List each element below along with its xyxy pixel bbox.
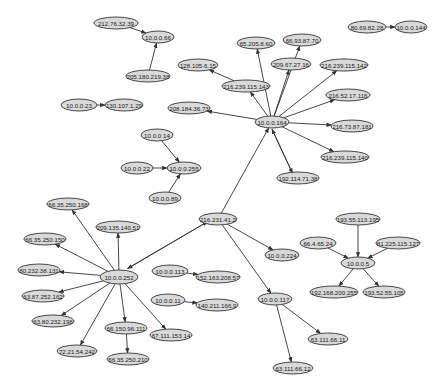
- node-label: 10.0.0.117: [261, 296, 290, 303]
- edge-10.0.0.14-to-10.0.0.255: [162, 141, 180, 163]
- edge-10.0.0.252-to-66.35.250.168: [72, 210, 114, 270]
- edge-212.76.32.39-to-10.0.0.66: [130, 28, 146, 33]
- graph-node[interactable]: 10.0.0.252: [100, 270, 138, 284]
- node-label: 216.239.115.143: [223, 83, 270, 90]
- node-label: 66.35.250.210: [108, 356, 148, 363]
- node-label: 10.0.0.89: [152, 195, 178, 202]
- edge-10.0.0.11-to-140.211.166.9: [184, 302, 197, 303]
- graph-node[interactable]: 192.168.200.255: [310, 286, 358, 298]
- graph-node[interactable]: 212.76.32.39: [94, 17, 138, 29]
- graph-node[interactable]: 63.80.232.198: [32, 315, 74, 327]
- nodes-layer: 212.76.32.3910.0.0.66205.180.219.3810.0.…: [18, 17, 427, 374]
- graph-node[interactable]: 216.239.115.140: [321, 151, 369, 163]
- node-label: 192.114.71.38: [278, 175, 318, 182]
- edge-216.231.41.2-to-10.0.0.164: [221, 128, 268, 213]
- graph-node[interactable]: 216.239.115.142: [320, 59, 368, 71]
- graph-node[interactable]: 10.0.0.66: [142, 31, 174, 43]
- network-graph: 212.76.32.3910.0.0.66205.180.219.3810.0.…: [0, 0, 440, 387]
- edge-10.0.0.89-to-10.0.0.255: [169, 174, 181, 192]
- graph-node[interactable]: 66.35.250.150: [24, 233, 66, 245]
- graph-node[interactable]: 67.111.153.14: [150, 329, 192, 341]
- edge-10.0.0.252-to-209.135.140.51: [118, 233, 119, 270]
- graph-node[interactable]: 63.111.66.12: [273, 362, 313, 374]
- graph-node[interactable]: 10.0.0.224: [265, 249, 299, 261]
- graph-node[interactable]: 216.52.17.116: [326, 89, 370, 101]
- node-label: 10.0.0.144: [396, 24, 426, 31]
- node-label: 10.0.0.113: [156, 268, 185, 275]
- edge-66.4.65.24-to-10.0.0.5: [328, 248, 348, 258]
- edge-10.0.0.164-to-216.73.87.181: [289, 123, 332, 125]
- node-label: 193.52.55.105: [364, 289, 404, 296]
- edge-10.0.0.252-to-63.87.252.162: [59, 281, 104, 292]
- node-label: 67.111.153.14: [152, 332, 191, 339]
- graph-node[interactable]: 66.150.96.111: [105, 322, 147, 334]
- graph-node[interactable]: 140.211.166.9: [196, 299, 238, 311]
- node-label: 10.0.0.14: [144, 132, 170, 139]
- graph-node[interactable]: 63.111.66.11: [308, 333, 348, 345]
- graph-node[interactable]: 216.239.115.143: [222, 80, 270, 92]
- edge-10.0.0.252-to-80.232.38.131: [59, 272, 100, 276]
- graph-node[interactable]: 193.55.113.195: [336, 213, 380, 225]
- node-label: 65.205.8.60: [240, 40, 273, 47]
- graph-node[interactable]: 66.4.65.24: [300, 237, 336, 249]
- graph-node[interactable]: 10.0.0.113: [152, 265, 188, 277]
- graph-node[interactable]: 209.67.27.16: [271, 58, 311, 70]
- graph-node[interactable]: 66.93.87.70: [283, 34, 321, 46]
- graph-node[interactable]: 66.35.250.210: [107, 353, 149, 365]
- node-label: 216.239.115.142: [321, 62, 368, 69]
- node-label: 130.107.1.29: [106, 102, 143, 109]
- node-label: 212.76.32.39: [98, 20, 135, 27]
- graph-node[interactable]: 10.0.0.22: [121, 162, 153, 174]
- node-label: 216.239.115.140: [322, 154, 369, 161]
- edge-10.0.0.164-to-209.67.27.16: [274, 70, 289, 116]
- graph-node[interactable]: 193.52.55.105: [363, 286, 405, 298]
- edge-216.239.115.143-to-128.105.6.15: [209, 70, 234, 81]
- graph-node[interactable]: 209.135.140.51: [96, 221, 140, 233]
- node-label: 10.0.0.11: [155, 297, 181, 304]
- node-label: 80.69.82.28: [351, 24, 384, 31]
- node-label: 10.0.0.164: [257, 119, 287, 126]
- graph-node[interactable]: 80.232.38.131: [18, 264, 60, 276]
- node-label: 193.55.113.195: [337, 216, 380, 223]
- graph-node[interactable]: 10.0.0.89: [149, 192, 181, 204]
- graph-node[interactable]: 130.107.1.29: [105, 99, 143, 111]
- graph-node[interactable]: 65.205.8.60: [237, 37, 275, 49]
- edge-10.0.0.252-to-66.35.250.150: [55, 244, 108, 271]
- graph-node[interactable]: 10.0.0.144: [395, 21, 427, 33]
- graph-node[interactable]: 205.180.219.38: [126, 70, 170, 82]
- graph-node[interactable]: 192.114.71.38: [277, 172, 319, 184]
- edge-10.0.0.5-to-193.52.55.105: [363, 269, 379, 287]
- graph-node[interactable]: 72.21.54.242: [57, 345, 97, 357]
- graph-node[interactable]: 216.231.41.2: [199, 213, 237, 225]
- node-label: 63.111.66.11: [311, 336, 346, 343]
- graph-node[interactable]: 10.0.0.117: [258, 293, 292, 305]
- node-label: 209.67.27.16: [273, 61, 310, 68]
- graph-node[interactable]: 66.35.250.168: [47, 198, 89, 210]
- graph-node[interactable]: 10.0.0.14: [141, 129, 173, 141]
- graph-node[interactable]: 208.184.36.73: [168, 102, 210, 114]
- edge-10.0.0.252-to-72.21.54.242: [80, 284, 115, 345]
- graph-node[interactable]: 10.0.0.255: [167, 162, 201, 174]
- graph-node[interactable]: 10.0.0.5: [341, 257, 375, 269]
- node-label: 216.52.17.116: [328, 92, 368, 99]
- graph-node[interactable]: 10.0.0.164: [255, 116, 289, 128]
- graph-node[interactable]: 10.0.0.11: [151, 294, 185, 306]
- graph-node[interactable]: 63.87.252.162: [22, 290, 64, 302]
- node-label: 152.163.208.57: [196, 274, 240, 281]
- graph-node[interactable]: 81.225.115.127: [376, 237, 420, 249]
- edge-10.0.0.252-to-63.80.232.198: [61, 283, 110, 315]
- node-label: 63.87.252.162: [23, 293, 63, 300]
- node-label: 205.180.219.38: [126, 73, 170, 80]
- edge-10.0.0.117-to-63.111.66.12: [277, 305, 292, 362]
- node-label: 192.168.200.255: [311, 289, 358, 296]
- edge-10.0.0.164-to-216.239.115.143: [250, 92, 267, 116]
- graph-node[interactable]: 10.0.0.23: [61, 99, 97, 111]
- node-label: 128.105.6.15: [180, 62, 217, 69]
- node-label: 63.111.66.12: [275, 365, 311, 372]
- graph-node[interactable]: 128.105.6.15: [178, 59, 218, 71]
- graph-node[interactable]: 152.163.208.57: [196, 271, 240, 283]
- graph-node[interactable]: 216.73.87.181: [331, 120, 373, 132]
- node-label: 80.232.38.131: [19, 267, 59, 274]
- node-label: 72.21.54.242: [59, 348, 96, 355]
- graph-node[interactable]: 80.69.82.28: [348, 21, 386, 33]
